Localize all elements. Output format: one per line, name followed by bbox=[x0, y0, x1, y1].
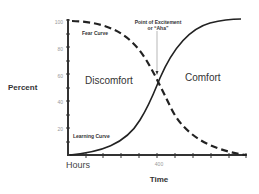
comfort-label: Comfort bbox=[185, 72, 221, 83]
y-tick-40: 40 bbox=[57, 99, 63, 105]
y-axis-title: Percent bbox=[8, 83, 38, 92]
aha-label-line2: or “Aha” bbox=[148, 25, 169, 31]
y-tick-60: 60 bbox=[57, 73, 63, 79]
chart-svg: 100 80 60 40 20 400 Hours Time Percent bbox=[0, 0, 259, 194]
y-tick-20: 20 bbox=[57, 126, 63, 132]
learning-curve-label: Learning Curve bbox=[73, 133, 110, 139]
y-tick-100: 100 bbox=[55, 19, 64, 25]
discomfort-label: Discomfort bbox=[85, 75, 133, 86]
fear-learning-curve-chart: 100 80 60 40 20 400 Hours Time Percent bbox=[0, 0, 259, 194]
x-start-label: Hours bbox=[66, 160, 91, 170]
y-tick-80: 80 bbox=[57, 46, 63, 52]
x-tick-400: 400 bbox=[155, 161, 164, 167]
fear-curve-label: Fear Curve bbox=[82, 30, 108, 36]
x-axis-title: Time bbox=[150, 175, 169, 184]
aha-arrow-head-icon bbox=[156, 71, 159, 75]
y-tick-labels: 100 80 60 40 20 bbox=[55, 19, 64, 132]
